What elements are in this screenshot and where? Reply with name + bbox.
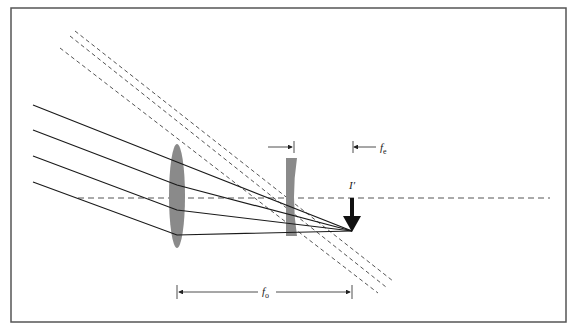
- image-arrow: [343, 198, 361, 232]
- eyepiece-focal-marker: [268, 141, 376, 153]
- eyepiece-focal-label: fe: [380, 141, 387, 156]
- dashed-rays: [60, 31, 393, 293]
- telescope-ray-diagram: I′ fe fo: [0, 0, 582, 332]
- image-label: I′: [348, 179, 356, 191]
- objective-focal-label: fo: [262, 285, 269, 300]
- solid-rays: [33, 105, 352, 235]
